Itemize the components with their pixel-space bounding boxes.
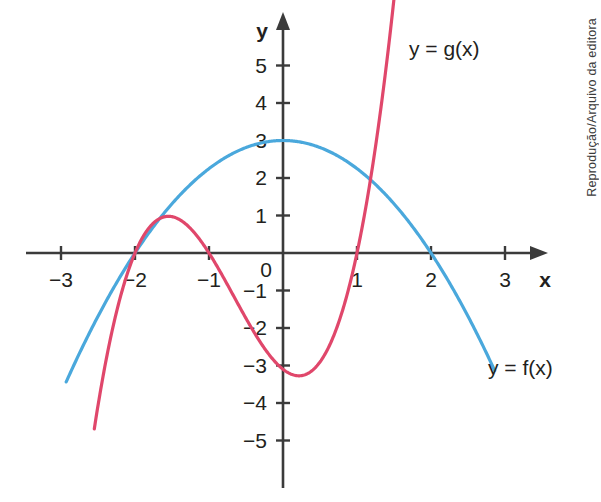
y-tick-label-4: 4 [255, 91, 267, 114]
figure-container: −3 −2 −1 1 2 3 5 4 3 2 1 −1 −2 −3 −4 −5 … [0, 0, 601, 502]
y-tick-label--4: −4 [243, 391, 267, 414]
x-tick-label-3: 3 [499, 268, 511, 291]
x-tick-label--3: −3 [49, 268, 73, 291]
y-axis-label: y [256, 19, 268, 42]
image-credit: Reprodução/Arquivo da editora [585, 18, 599, 197]
y-tick-label--5: −5 [243, 429, 267, 452]
y-tick-label-2: 2 [255, 166, 267, 189]
y-tick-label-1: 1 [255, 204, 267, 227]
curve-label-g: y = g(x) [409, 37, 480, 60]
curve-label-f: y = f(x) [488, 356, 553, 379]
y-tick-label-5: 5 [255, 54, 267, 77]
y-tick-label--3: −3 [243, 354, 267, 377]
x-tick-label--1: −1 [197, 268, 221, 291]
x-tick-label-2: 2 [425, 268, 437, 291]
function-graph-plot: −3 −2 −1 1 2 3 5 4 3 2 1 −1 −2 −3 −4 −5 … [0, 0, 601, 502]
x-axis-arrow-icon [530, 246, 548, 260]
axis-group [26, 12, 548, 488]
x-axis-label: x [539, 268, 551, 291]
y-axis-arrow-icon [276, 12, 290, 30]
